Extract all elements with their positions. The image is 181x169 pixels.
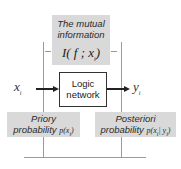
posterior-expr-prefix: p(x (146, 126, 156, 135)
posterior-expr-suffix: ) (168, 126, 171, 135)
prior-probability-title: Priory (7, 113, 80, 124)
prior-probability-box: Priory probability p(xi) (7, 112, 80, 137)
input-arrow-shaft (36, 88, 54, 90)
output-arrow-head-icon (124, 86, 130, 92)
logic-network-box: Logic network (59, 72, 107, 107)
logic-network-label-2: network (60, 89, 106, 100)
input-var-sub: i (20, 90, 22, 96)
prior-probability-word: probability (13, 124, 59, 135)
mutual-information-formula: I( f ; xi) (52, 45, 110, 67)
prior-expr-prefix: p(x (59, 126, 69, 135)
posterior-probability-word: probability (101, 124, 147, 135)
posterior-probability-title: Posteriori (95, 113, 176, 124)
prior-expr-suffix: ) (71, 126, 74, 135)
prior-probability-expr: p(xi) (59, 126, 74, 135)
output-arrow-shaft (107, 88, 125, 90)
posterior-probability-line2: probability p(xi| yi) (95, 124, 176, 140)
logic-network-label-1: Logic (60, 78, 106, 89)
formula-suffix: ) (96, 45, 100, 60)
prior-probability-line2: probability p(xi) (7, 124, 80, 140)
baseline (24, 157, 146, 158)
left-guide-line (43, 42, 44, 158)
posterior-expr-mid: | y (158, 126, 166, 135)
output-var-sub: i (139, 90, 141, 96)
right-guide-line (121, 42, 122, 158)
mutual-information-title-1: The mutual (52, 18, 110, 29)
right-tick-line (111, 51, 117, 52)
mutual-information-box: The mutual information I( f ; xi) (52, 15, 110, 65)
output-variable: yi (133, 79, 140, 96)
formula-prefix: I( f ; x (62, 45, 94, 60)
posterior-probability-expr: p(xi| yi) (146, 126, 170, 135)
input-variable: xi (14, 79, 21, 96)
left-tick-line (45, 51, 51, 52)
mutual-information-title-2: information (52, 29, 110, 40)
posterior-probability-box: Posteriori probability p(xi| yi) (95, 112, 176, 137)
